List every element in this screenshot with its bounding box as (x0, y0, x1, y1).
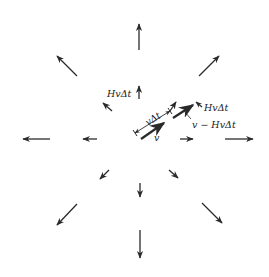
velocity-v-minus-hv-dt-arrow (173, 105, 193, 118)
leader-line (184, 111, 191, 119)
hv-dt-back-arrow (196, 102, 202, 107)
label-v: v (154, 132, 160, 143)
label-v-minus-hv-dt: v − HvΔt (192, 119, 236, 130)
arrow-upright-small (170, 102, 176, 111)
arrow-downleft-small (100, 170, 109, 179)
label-hv-dt-right: HvΔt (203, 102, 229, 113)
arrow-upright-large (199, 56, 219, 76)
inner-velocity-arrows (83, 86, 193, 197)
arrow-downright-small (169, 170, 178, 178)
arrow-downright-large (202, 203, 222, 223)
label-hv-dt-left: HvΔt (106, 88, 132, 99)
hubble-flow-diagram: HvΔt vΔt v HvΔt v − HvΔt (0, 0, 269, 277)
dimension-tick-left (133, 130, 137, 136)
arrow-downleft-large (57, 204, 77, 225)
outer-velocity-arrows (23, 24, 253, 258)
arrow-upleft-large (57, 56, 77, 76)
arrow-upleft-small (103, 103, 112, 111)
